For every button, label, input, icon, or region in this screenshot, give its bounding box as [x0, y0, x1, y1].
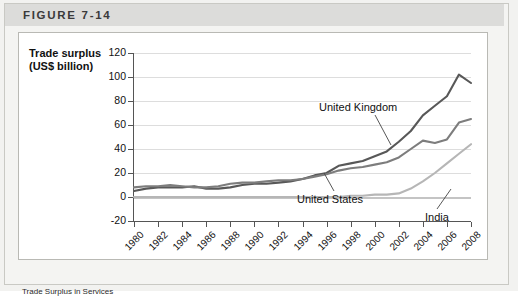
x-tick-mark — [278, 222, 279, 227]
x-tick-mark — [158, 222, 159, 227]
x-tick-mark — [303, 222, 304, 227]
leader-line-india — [437, 189, 451, 209]
x-tick-mark — [134, 222, 135, 227]
series-line-united-states — [134, 119, 471, 187]
y-tick-mark — [128, 221, 133, 222]
x-tick-mark — [471, 222, 472, 227]
y-tick-mark — [128, 149, 133, 150]
figure-header-band: FIGURE 7-14 — [5, 4, 504, 26]
leader-line-united-kingdom — [375, 115, 391, 145]
y-tick-mark — [128, 197, 133, 198]
series-label-india: India — [425, 211, 449, 223]
x-tick-mark — [254, 222, 255, 227]
leader-line-united-states — [324, 173, 334, 191]
x-tick-mark — [447, 222, 448, 227]
figure-caption: Trade Surplus in Services — [22, 287, 113, 296]
series-line-united-kingdom — [134, 75, 471, 191]
x-tick-mark — [423, 222, 424, 227]
y-tick-mark — [128, 101, 133, 102]
x-tick-mark — [399, 222, 400, 227]
y-tick-mark — [128, 53, 133, 54]
figure-number-label: FIGURE 7-14 — [23, 9, 111, 21]
x-tick-mark — [230, 222, 231, 227]
x-tick-mark — [327, 222, 328, 227]
x-tick-mark — [206, 222, 207, 227]
y-tick-mark — [128, 173, 133, 174]
series-label-united-kingdom: United Kingdom — [319, 101, 397, 113]
x-tick-mark — [375, 222, 376, 227]
x-tick-mark — [351, 222, 352, 227]
series-label-united-states: United States — [297, 193, 363, 205]
series-line-india — [134, 144, 471, 197]
x-tick-mark — [182, 222, 183, 227]
y-tick-mark — [128, 77, 133, 78]
y-tick-mark — [128, 125, 133, 126]
chart-plate: Trade surplus (US$ billion) 120100806040… — [18, 32, 488, 260]
